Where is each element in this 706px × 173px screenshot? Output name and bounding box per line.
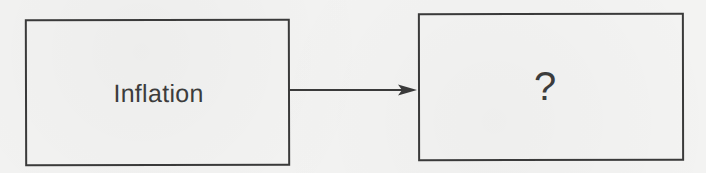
node-inflation-label: Inflation: [113, 79, 203, 108]
node-unknown-label: ?: [534, 63, 556, 108]
arrow-right-icon: [289, 82, 419, 98]
diagram-canvas: Inflation ?: [0, 0, 706, 173]
node-inflation: Inflation: [25, 19, 290, 167]
node-unknown: ?: [418, 13, 684, 161]
